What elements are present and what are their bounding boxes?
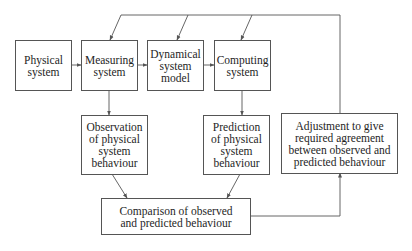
arrow-observation-to-comparison (112, 174, 127, 198)
node-dynamical-system-model: Dynamical system model (147, 40, 204, 91)
node-measuring-system: Measuring system (81, 40, 138, 91)
node-prediction: Prediction of physical system behaviour (203, 115, 270, 175)
node-label: Computing system (217, 54, 269, 78)
arrow-prediction-to-comparison (227, 174, 240, 198)
node-label: Comparison of observed and predicted beh… (119, 205, 232, 229)
node-adjustment: Adjustment to give required agreement be… (281, 113, 398, 174)
node-observation: Observation of physical system behaviour (81, 115, 148, 175)
node-comparison: Comparison of observed and predicted beh… (101, 198, 251, 235)
node-label: Prediction of physical system behaviour (211, 121, 262, 169)
node-label: Observation of physical system behaviour (86, 121, 142, 169)
arrow-comparison-to-adjustment (250, 173, 340, 216)
node-computing-system: Computing system (214, 40, 271, 91)
arrow-feedback-to-computing (241, 15, 252, 40)
node-label: Physical system (24, 54, 63, 78)
node-label: Adjustment to give required agreement be… (288, 120, 390, 168)
node-physical-system: Physical system (15, 40, 72, 91)
arrow-feedback-to-dynamical (177, 15, 188, 40)
node-label: Dynamical system model (150, 48, 200, 84)
arrow-feedback-to-measuring (110, 15, 121, 40)
node-label: Measuring system (85, 54, 134, 78)
